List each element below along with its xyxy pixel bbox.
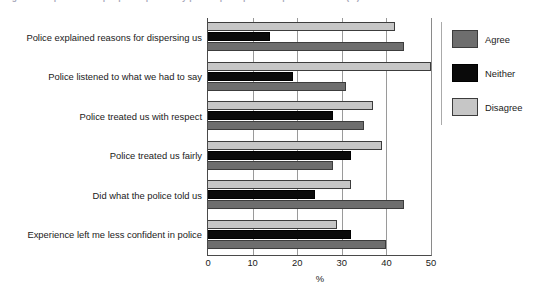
bar-agree[interactable] [208, 200, 404, 209]
legend-label-agree: Agree [485, 34, 510, 45]
bar-chart: 01020304050 % Agree Neither Disagree Exp… [0, 14, 541, 292]
legend-item-neither[interactable]: Neither [452, 56, 538, 90]
plot-area [207, 18, 432, 256]
bar-agree[interactable] [208, 82, 346, 91]
bar-neither[interactable] [208, 32, 270, 41]
category-label: Experience left me less confident in pol… [2, 229, 202, 240]
bar-neither[interactable] [208, 151, 351, 160]
bar-neither[interactable] [208, 230, 351, 239]
bar-group [208, 58, 431, 98]
category-label: Police explained reasons for dispersing … [2, 32, 202, 43]
legend-item-disagree[interactable]: Disagree [452, 90, 538, 124]
bar-agree[interactable] [208, 121, 364, 130]
figure-caption: Figure 3: Experience of people dispersed… [4, 0, 537, 4]
category-label: Police listened to what we had to say [2, 71, 202, 82]
x-tick-label: 40 [381, 257, 391, 268]
bar-disagree[interactable] [208, 141, 382, 150]
bar-disagree[interactable] [208, 101, 373, 110]
bar-neither[interactable] [208, 111, 333, 120]
bar-group [208, 176, 431, 216]
category-label: Did what the police told us [2, 190, 202, 201]
x-tick-label: 10 [247, 257, 257, 268]
legend-divider [441, 22, 442, 125]
bar-agree[interactable] [208, 161, 333, 170]
x-tick-label: 50 [426, 257, 436, 268]
bar-group [208, 97, 431, 137]
bar-neither[interactable] [208, 190, 315, 199]
legend-label-neither: Neither [485, 68, 515, 79]
category-label: Police treated us with respect [2, 111, 202, 122]
bar-group [208, 18, 431, 58]
bar-group [208, 216, 431, 256]
bar-disagree[interactable] [208, 62, 431, 71]
legend-item-agree[interactable]: Agree [452, 22, 538, 56]
legend-swatch-neither [452, 64, 478, 82]
x-tick-label: 20 [292, 257, 302, 268]
chart-legend: Agree Neither Disagree [452, 22, 538, 124]
bar-neither[interactable] [208, 72, 293, 81]
bar-agree[interactable] [208, 42, 404, 51]
x-tick-label: 30 [337, 257, 347, 268]
legend-swatch-agree [452, 30, 478, 48]
bar-group [208, 137, 431, 177]
category-label: Police treated us fairly [2, 150, 202, 161]
x-axis-label: % [207, 273, 433, 284]
bar-agree[interactable] [208, 240, 386, 249]
legend-label-disagree: Disagree [485, 102, 523, 113]
legend-swatch-disagree [452, 98, 478, 116]
x-tick-label: 0 [205, 257, 210, 268]
x-axis: 01020304050 [207, 257, 433, 271]
bar-disagree[interactable] [208, 22, 395, 31]
bar-disagree[interactable] [208, 180, 351, 189]
bar-disagree[interactable] [208, 220, 337, 229]
